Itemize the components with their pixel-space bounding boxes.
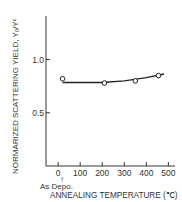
x-tick-label: 200 (95, 168, 109, 178)
data-point (133, 79, 138, 84)
annotation-as-depo: As Depo. (40, 182, 73, 191)
x-axis-label: ANNEALING TEMPERATURE (℃) (50, 191, 178, 200)
data-point (102, 81, 107, 86)
chart: 0.51.0 0100200300400500 ↑ As Depo. ANNEA… (0, 0, 182, 202)
data-point (156, 73, 161, 78)
x-tick-label: 300 (117, 168, 131, 178)
x-tick-label: 400 (139, 168, 153, 178)
y-tick-label: 0.5 (32, 108, 44, 118)
data-point (60, 76, 65, 81)
fit-curve (63, 74, 165, 83)
x-tick-label: 100 (73, 168, 87, 178)
y-tick-label: 1.0 (32, 55, 44, 65)
x-tick-label: 500 (161, 168, 175, 178)
y-axis-label: NORMARIZED SCATTERING YIELD, Y₀/Yᶜ (11, 18, 20, 174)
